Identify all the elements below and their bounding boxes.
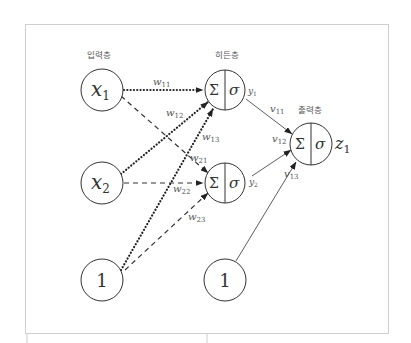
node-bias-hidden: 1: [204, 259, 246, 301]
weight-w13-label: w13: [202, 131, 219, 144]
sum-icon: Σ: [295, 136, 305, 152]
bias-input-label: 1: [96, 270, 107, 291]
sigma-activation-icon: σ: [229, 174, 240, 192]
weight-w21-label: w21: [190, 152, 207, 165]
edge-h1-output: [246, 99, 292, 134]
node-h2: Σ σ: [205, 163, 245, 203]
weight-w12-label: w12: [166, 107, 183, 120]
weight-w11-label: w11: [153, 76, 170, 89]
weight-w22-label: w22: [173, 183, 190, 196]
weight-v11-label: v11: [270, 103, 285, 116]
hidden-layer-label: 히든층: [215, 50, 239, 60]
h1-output-label: y1: [247, 86, 257, 97]
weight-v12-label: v12: [272, 133, 287, 146]
x1-base: x: [91, 77, 102, 101]
sum-icon: Σ: [209, 82, 219, 98]
node-bias-input: 1: [81, 259, 123, 301]
edge-bias-h2: [125, 193, 208, 270]
node-x2: x2: [81, 162, 123, 204]
weight-w23-label: w23: [188, 211, 205, 224]
edge-bias-h1: [121, 109, 213, 270]
sum-icon: Σ: [209, 175, 219, 191]
node-h1: Σ σ: [205, 70, 245, 110]
node-output: Σ σ: [290, 123, 332, 165]
x1-sub: 1: [102, 89, 110, 103]
x2-base: x: [91, 170, 102, 194]
node-x1: x1: [81, 69, 123, 111]
x2-sub: 2: [102, 182, 110, 196]
sigma-activation-icon: σ: [315, 135, 326, 153]
bias-hidden-label: 1: [219, 270, 230, 291]
output-layer-label: 출력층: [298, 105, 322, 115]
edge-x2-h1: [121, 102, 208, 174]
output-z1-label: z1: [334, 134, 350, 156]
neural-network-diagram: 입력층 히든층 출력층 x1 x2 1 Σ σ: [0, 0, 411, 343]
sigma-activation-icon: σ: [229, 81, 240, 99]
input-layer-label: 입력층: [87, 50, 111, 60]
h2-output-label: y2: [248, 177, 258, 188]
